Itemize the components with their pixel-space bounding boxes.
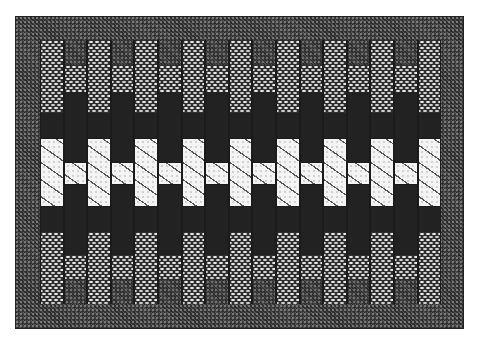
band-dark xyxy=(159,280,181,304)
band-diagonal xyxy=(183,113,205,138)
band-white xyxy=(206,162,228,185)
band-diagonal xyxy=(253,92,275,162)
band-white xyxy=(65,162,87,185)
band-mesh xyxy=(65,65,87,92)
band-mesh xyxy=(395,255,417,280)
band-dark xyxy=(253,40,275,65)
band-diagonal xyxy=(230,113,252,138)
band-mesh xyxy=(277,232,299,304)
band-white xyxy=(301,162,323,185)
band-diagonal xyxy=(206,185,228,255)
band-mesh xyxy=(159,65,181,92)
band-mesh xyxy=(230,232,252,304)
band-dark xyxy=(301,280,323,304)
band-mesh xyxy=(419,232,441,304)
band-mesh xyxy=(301,65,323,92)
band-dark xyxy=(348,280,370,304)
band-mesh xyxy=(348,255,370,280)
band-white xyxy=(419,138,441,207)
band-mesh xyxy=(371,40,393,113)
band-mesh xyxy=(41,40,63,113)
pattern-column-b xyxy=(64,40,88,304)
band-diagonal xyxy=(230,207,252,232)
band-white xyxy=(253,162,275,185)
band-mesh xyxy=(135,40,157,113)
band-mesh xyxy=(65,255,87,280)
band-dark xyxy=(395,280,417,304)
band-dark xyxy=(206,280,228,304)
band-white xyxy=(88,138,110,207)
band-diagonal xyxy=(277,207,299,232)
pattern-column-a xyxy=(370,40,394,304)
pattern-column-b xyxy=(158,40,182,304)
band-mesh xyxy=(253,255,275,280)
band-diagonal xyxy=(277,113,299,138)
band-mesh xyxy=(253,65,275,92)
band-mesh xyxy=(301,255,323,280)
band-white xyxy=(371,138,393,207)
band-dark xyxy=(348,40,370,65)
pattern-column-a xyxy=(323,40,347,304)
pattern-column-a xyxy=(418,40,442,304)
rug-border xyxy=(15,16,464,329)
band-white xyxy=(324,138,346,207)
band-mesh xyxy=(88,40,110,113)
band-mesh xyxy=(324,40,346,113)
band-mesh xyxy=(206,65,228,92)
band-mesh xyxy=(183,40,205,113)
band-dark xyxy=(159,40,181,65)
band-white xyxy=(159,162,181,185)
band-white xyxy=(230,138,252,207)
band-dark xyxy=(65,40,87,65)
band-diagonal xyxy=(159,185,181,255)
band-mesh xyxy=(277,40,299,113)
pattern-column-a xyxy=(40,40,64,304)
band-diagonal xyxy=(135,113,157,138)
band-mesh xyxy=(371,232,393,304)
band-diagonal xyxy=(65,92,87,162)
band-mesh xyxy=(348,65,370,92)
band-mesh xyxy=(159,255,181,280)
band-diagonal xyxy=(301,185,323,255)
band-diagonal xyxy=(301,92,323,162)
band-white xyxy=(183,138,205,207)
band-mesh xyxy=(88,232,110,304)
band-diagonal xyxy=(395,185,417,255)
band-diagonal xyxy=(348,185,370,255)
band-white xyxy=(135,138,157,207)
band-diagonal xyxy=(419,207,441,232)
band-diagonal xyxy=(112,185,134,255)
band-mesh xyxy=(112,65,134,92)
pattern-column-a xyxy=(182,40,206,304)
band-white xyxy=(348,162,370,185)
band-diagonal xyxy=(395,92,417,162)
band-mesh xyxy=(230,40,252,113)
band-diagonal xyxy=(253,185,275,255)
band-dark xyxy=(395,40,417,65)
pattern-column-b xyxy=(252,40,276,304)
band-dark xyxy=(301,40,323,65)
pattern-column-a xyxy=(229,40,253,304)
band-diagonal xyxy=(65,185,87,255)
band-mesh xyxy=(419,40,441,113)
band-mesh xyxy=(112,255,134,280)
pattern-column-b xyxy=(111,40,135,304)
band-diagonal xyxy=(371,113,393,138)
band-diagonal xyxy=(371,207,393,232)
band-white xyxy=(112,162,134,185)
band-diagonal xyxy=(348,92,370,162)
pattern-column-a xyxy=(87,40,111,304)
pattern-column-b xyxy=(205,40,229,304)
pattern-column-b xyxy=(347,40,371,304)
band-mesh xyxy=(206,255,228,280)
band-diagonal xyxy=(135,207,157,232)
band-mesh xyxy=(324,232,346,304)
band-diagonal xyxy=(419,113,441,138)
band-diagonal xyxy=(183,207,205,232)
band-diagonal xyxy=(88,207,110,232)
rug-field xyxy=(40,40,441,304)
band-dark xyxy=(206,40,228,65)
band-mesh xyxy=(135,232,157,304)
band-dark xyxy=(112,40,134,65)
pattern-column-b xyxy=(300,40,324,304)
